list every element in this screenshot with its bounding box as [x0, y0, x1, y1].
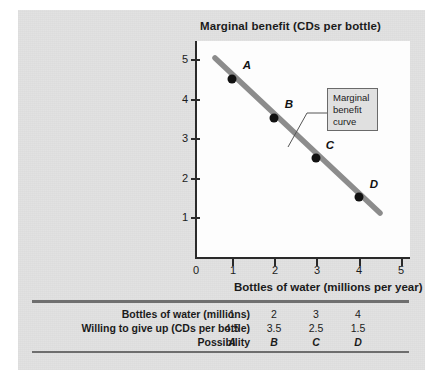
data-point-label-d: D: [370, 178, 378, 190]
table-row: Bottles of water (millions) 1 2 3 4: [32, 308, 409, 322]
table-cell: 2.5: [299, 322, 333, 334]
x-tick-label-2: 2: [265, 264, 285, 276]
table-rule-bottom: [32, 351, 409, 353]
table-cell: 1.5: [341, 322, 375, 334]
x-tick-label-3: 3: [307, 264, 327, 276]
y-tick-label-1: 1: [168, 211, 188, 223]
plot-area: [196, 41, 410, 258]
y-tick-1: [191, 217, 200, 219]
annotation-line-1: Marginal: [333, 92, 377, 104]
table-cell: C: [299, 336, 333, 348]
y-tick-label-2: 2: [168, 172, 188, 184]
x-tick-label-4: 4: [349, 264, 369, 276]
y-tick-label-4: 4: [168, 93, 188, 105]
y-tick-5: [191, 59, 200, 61]
data-point-b: [270, 114, 279, 123]
data-point-c: [312, 154, 321, 163]
table-cell: D: [341, 336, 375, 348]
table-cell: 2: [257, 308, 291, 320]
x-axis-line: [195, 257, 410, 259]
figure-root: Marginal benefit (CDs per bottle) 1 2 3 …: [0, 0, 441, 383]
y-tick-label-5: 5: [168, 53, 188, 65]
table-cell: A: [215, 336, 249, 348]
x-tick-label-5: 5: [391, 264, 411, 276]
annotation-box: Marginal benefit curve: [327, 88, 378, 131]
table-rule-top: [32, 300, 409, 303]
annotation-line-3: curve: [333, 116, 377, 128]
x-axis-title: Bottles of water (millions per year): [234, 281, 423, 293]
data-point-label-b: B: [285, 98, 293, 110]
table-cell: 3.5: [257, 322, 291, 334]
table-cell: 1: [215, 308, 249, 320]
table-row: Possibility A B C D: [32, 336, 409, 350]
table-cell: 3: [299, 308, 333, 320]
y-tick-label-3: 3: [168, 132, 188, 144]
table-cell: 4.5: [215, 322, 249, 334]
y-tick-2: [191, 178, 200, 180]
x-tick-label-1: 1: [223, 264, 243, 276]
y-axis-line: [195, 41, 197, 259]
table-row: Willing to give up (CDs per bottle) 4.5 …: [32, 322, 409, 336]
annotation-line-2: benefit: [333, 104, 377, 116]
data-point-d: [355, 193, 364, 202]
table-cell: 4: [341, 308, 375, 320]
x-tick-label-0: 0: [186, 264, 206, 276]
data-point-label-a: A: [243, 59, 251, 71]
data-point-a: [228, 75, 237, 84]
data-point-label-c: C: [326, 139, 334, 151]
table-cell: B: [257, 336, 291, 348]
y-tick-4: [191, 99, 200, 101]
y-axis-title: Marginal benefit (CDs per bottle): [200, 20, 381, 32]
y-tick-3: [191, 138, 200, 140]
